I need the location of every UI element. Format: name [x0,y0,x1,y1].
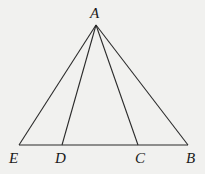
triangle-diagram: A E D C B [0,0,205,174]
label-c: C [135,151,145,166]
label-e: E [9,151,18,166]
segment-ad [62,25,96,145]
label-b: B [186,151,195,166]
segment-ac [96,25,138,145]
diagram-lines [0,0,205,174]
segment-ae [19,25,96,145]
label-a: A [90,6,99,21]
segment-ab [96,25,188,145]
label-d: D [55,151,66,166]
